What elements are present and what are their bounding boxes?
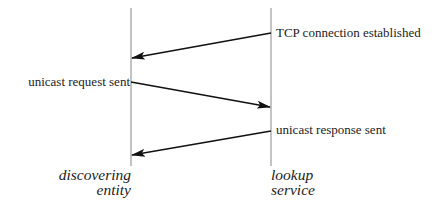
participant-label-line1: discovering [59,167,131,182]
message-label-response: unicast response sent [276,123,386,137]
arrow-tcp-connection [132,33,271,58]
participant-label-discovering: discovering entity [59,167,131,197]
sequence-diagram: TCP connection established unicast reque… [0,0,444,212]
arrow-unicast-request [131,82,270,107]
participant-label-line1: lookup [271,167,315,182]
participant-label-line2: entity [59,182,131,197]
message-label-request: unicast request sent [28,75,130,89]
participant-label-line2: service [271,182,315,197]
arrow-unicast-response [132,131,271,155]
message-label-tcp: TCP connection established [276,26,421,40]
participant-label-lookup: lookup service [271,167,315,197]
